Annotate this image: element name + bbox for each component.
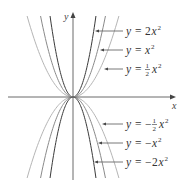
label-frac-den: 2 (153, 125, 157, 133)
label-lhs: y (125, 118, 132, 131)
label-coef: 2 (152, 156, 158, 168)
label-var: x (144, 44, 151, 56)
curve-label-4: y=−12x2 (102, 117, 169, 133)
label-equals: = (135, 44, 142, 56)
y-axis-label: y (63, 11, 69, 22)
curve-label-1: y=2x2 (95, 24, 162, 38)
label-equals: = (135, 156, 142, 168)
x-axis-arrow-icon (170, 95, 176, 100)
curve-label-6: y=−2x2 (94, 155, 169, 169)
label-exponent: 2 (151, 43, 155, 51)
pointer-arrow-icon (104, 67, 108, 70)
label-exponent: 2 (165, 117, 169, 125)
x-axis-label: x (171, 100, 177, 111)
label-frac-num: 1 (146, 62, 150, 70)
label-lhs: y (125, 63, 132, 76)
chart-canvas: x y y=2x2y=x2y=12x2y=−12x2y=−x2y=−2x2 (0, 0, 189, 188)
label-minus: − (145, 118, 152, 130)
label-var: x (158, 118, 165, 130)
label-frac-num: 1 (153, 117, 157, 125)
label-equals: = (135, 63, 142, 75)
pointer-arrow-icon (102, 122, 106, 125)
label-lhs: y (125, 156, 132, 169)
curve-label-5: y=−x2 (98, 136, 162, 150)
curve-label-3: y=12x2 (104, 62, 162, 78)
parabola-family-chart: x y y=2x2y=x2y=12x2y=−12x2y=−x2y=−2x2 (0, 0, 189, 188)
label-exponent: 2 (158, 136, 162, 144)
label-var: x (151, 25, 158, 37)
label-var: x (151, 137, 158, 149)
label-lhs: y (125, 137, 132, 150)
label-equals: = (135, 137, 142, 149)
label-lhs: y (125, 44, 132, 57)
pointer-arrow-icon (95, 29, 99, 32)
label-frac-den: 2 (146, 70, 150, 78)
curve-label-2: y=x2 (100, 43, 155, 57)
pointer-arrow-icon (98, 141, 102, 144)
pointer-arrow-icon (100, 48, 104, 51)
pointer-arrow-icon (94, 160, 98, 163)
label-minus: − (145, 156, 152, 168)
label-var: x (151, 63, 158, 75)
label-equals: = (135, 118, 142, 130)
label-minus: − (145, 137, 152, 149)
label-equals: = (135, 25, 142, 37)
y-axis-arrow-icon (71, 12, 76, 18)
label-exponent: 2 (158, 24, 162, 32)
label-var: x (158, 156, 165, 168)
label-coef: 2 (145, 25, 151, 37)
label-lhs: y (125, 25, 132, 38)
label-exponent: 2 (165, 155, 169, 163)
label-exponent: 2 (158, 62, 162, 70)
